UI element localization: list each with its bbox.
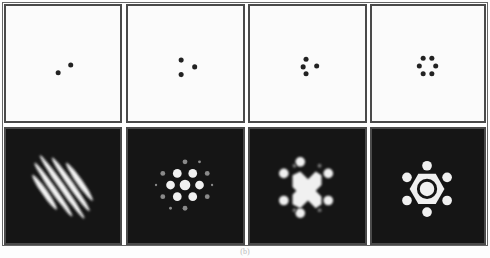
- aperture-panel-2: [4, 4, 122, 123]
- aperture-panel-6: [370, 4, 486, 123]
- diffraction-spot: [173, 169, 182, 178]
- diffraction-spot: [323, 169, 333, 179]
- diffraction-spot: [205, 171, 210, 176]
- fringe-stripe: [50, 156, 92, 213]
- figure-grid: [2, 2, 488, 246]
- aperture-panel-4: [248, 4, 367, 123]
- diffraction-spot: [166, 181, 175, 190]
- diffraction-spot: [155, 184, 157, 186]
- diffraction-spot: [183, 206, 188, 211]
- diffraction-spot: [188, 169, 197, 178]
- aperture-dot: [304, 57, 309, 62]
- aperture-dot: [56, 70, 61, 75]
- diffraction-spot: [422, 207, 432, 217]
- faint-spot: [318, 164, 322, 168]
- aperture-dot: [429, 71, 434, 76]
- aperture-dot: [433, 63, 438, 68]
- fringe-stripe: [32, 161, 74, 218]
- aperture-dot: [421, 56, 426, 61]
- diffraction-panel-3: [126, 127, 245, 245]
- diffraction-spot: [442, 172, 452, 182]
- fringe-stripe: [37, 154, 86, 221]
- diffraction-spot: [295, 157, 305, 167]
- diffraction-spot: [402, 172, 412, 182]
- diffraction-spot: [173, 192, 182, 201]
- central-spot: [422, 184, 433, 195]
- diffraction-spot: [160, 194, 165, 199]
- diffraction-spot: [195, 181, 204, 190]
- aperture-dot: [68, 62, 73, 67]
- diffraction-spot: [169, 207, 172, 210]
- faint-spot: [293, 208, 297, 212]
- diffraction-panel-6: [370, 127, 486, 245]
- faint-spot: [318, 208, 322, 212]
- diffraction-spot: [160, 171, 165, 176]
- diffraction-spot: [188, 192, 197, 201]
- aperture-dot: [192, 64, 197, 69]
- diffraction-spot: [402, 196, 412, 206]
- central-cluster: [293, 172, 322, 209]
- diffraction-spot: [442, 196, 452, 206]
- aperture-dot: [429, 56, 434, 61]
- diffraction-spot: [198, 160, 201, 163]
- aperture-dot: [314, 63, 319, 68]
- diffraction-panel-2: [4, 127, 122, 245]
- diffraction-panel-4: [248, 127, 367, 245]
- faint-spot: [293, 164, 297, 168]
- aperture-dot: [421, 71, 426, 76]
- aperture-dot: [304, 71, 309, 76]
- diffraction-spot: [279, 196, 289, 206]
- diffraction-spot: [295, 208, 305, 218]
- aperture-dot: [301, 64, 306, 69]
- diffraction-spot: [211, 184, 213, 186]
- diffraction-spot: [323, 196, 333, 206]
- aperture-dot: [417, 63, 422, 68]
- diffraction-spot: [279, 169, 289, 179]
- diffraction-spot: [183, 159, 188, 164]
- aperture-panel-3: [126, 4, 245, 123]
- diffraction-spot: [205, 194, 210, 199]
- aperture-dot: [179, 58, 184, 63]
- aperture-dot: [179, 72, 184, 77]
- diffraction-spot: [422, 161, 432, 171]
- diffraction-spot: [180, 180, 191, 191]
- figure-caption: (b): [0, 247, 490, 256]
